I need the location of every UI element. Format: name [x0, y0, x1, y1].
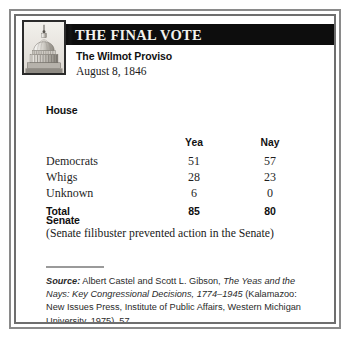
table-row: Whigs 28 23 [46, 169, 308, 185]
source-citation: Source: Albert Castel and Scott L. Gibso… [46, 275, 314, 322]
row-party-democrats: Democrats [46, 153, 156, 169]
column-header-party [46, 130, 156, 153]
table-header-row: Yea Nay [46, 130, 308, 153]
row-nay-democrats: 57 [232, 153, 308, 169]
house-section-label: House [46, 104, 78, 116]
house-vote-table: Yea Nay Democrats 51 57 Whigs 28 23 [46, 130, 308, 219]
capitol-dome-icon [22, 20, 66, 75]
card-outer-frame: THE FINAL VOTE [9, 9, 341, 329]
card-header-band: THE FINAL VOTE [64, 24, 334, 45]
column-header-yea: Yea [156, 130, 232, 153]
bill-name: The Wilmot Proviso [76, 49, 172, 63]
row-yea-total: 85 [156, 201, 232, 219]
column-header-nay: Nay [232, 130, 308, 153]
senate-note: (Senate filibuster prevented action in t… [46, 227, 274, 240]
row-yea-democrats: 51 [156, 153, 232, 169]
table-row: Democrats 51 57 [46, 153, 308, 169]
capitol-dome-illustration [24, 22, 64, 73]
table-row: Unknown 6 0 [46, 185, 308, 201]
table-row-total: Total 85 80 [46, 201, 308, 219]
row-yea-whigs: 28 [156, 169, 232, 185]
page-title: THE FINAL VOTE [75, 26, 202, 43]
source-authors: Albert Castel and Scott L. Gibson, [80, 276, 223, 286]
row-yea-unknown: 6 [156, 185, 232, 201]
card-inner-frame: THE FINAL VOTE [14, 14, 336, 324]
senate-section-label: Senate [46, 214, 80, 226]
row-nay-total: 80 [232, 201, 308, 219]
source-divider [46, 266, 104, 268]
source-label: Source: [46, 276, 80, 286]
bill-identification: The Wilmot Proviso August 8, 1846 [76, 49, 172, 79]
final-vote-card: THE FINAL VOTE [16, 16, 334, 322]
row-party-unknown: Unknown [46, 185, 156, 201]
row-party-whigs: Whigs [46, 169, 156, 185]
row-nay-whigs: 23 [232, 169, 308, 185]
bill-date: August 8, 1846 [76, 64, 172, 79]
row-nay-unknown: 0 [232, 185, 308, 201]
